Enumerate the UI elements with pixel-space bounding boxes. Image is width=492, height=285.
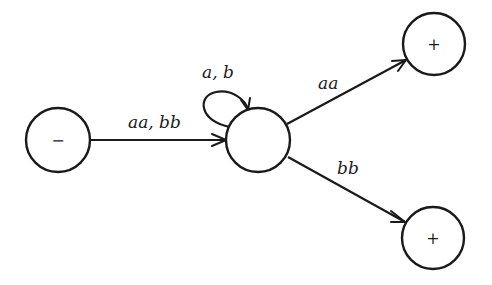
edge-start-to-middle	[90, 134, 226, 146]
edge-label-start-middle: aa, bb	[128, 112, 181, 132]
node-final-top: +	[403, 13, 465, 75]
start-minus-label: −	[51, 131, 64, 150]
edge-label-middle-final-top: aa	[318, 73, 338, 93]
final-plus-label: +	[427, 35, 440, 54]
final-plus-label: +	[426, 229, 439, 248]
node-final-bottom: +	[402, 207, 464, 269]
node-middle	[226, 108, 290, 172]
edge-label-self-loop: a, b	[202, 62, 234, 82]
node-start: −	[26, 108, 90, 172]
state-diagram: aa, bb a, b aa bb − + +	[0, 0, 492, 285]
edge-middle-to-final-top	[287, 60, 406, 124]
edge-label-middle-final-bottom: bb	[337, 158, 359, 178]
